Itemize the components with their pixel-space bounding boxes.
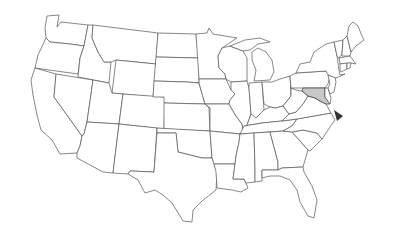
state-south-dakota bbox=[154, 57, 199, 83]
state-pennsylvania bbox=[290, 71, 330, 88]
state-florida bbox=[262, 167, 317, 218]
state-rhode-island bbox=[347, 63, 351, 69]
state-kansas bbox=[164, 103, 210, 131]
pointer-arrow-icon bbox=[334, 110, 343, 121]
us-map bbox=[0, 0, 397, 233]
state-new-mexico bbox=[113, 124, 157, 174]
state-colorado bbox=[119, 94, 165, 129]
state-wyoming bbox=[112, 60, 156, 97]
states-layer bbox=[31, 15, 364, 222]
state-maine bbox=[347, 22, 364, 52]
state-north-dakota bbox=[156, 33, 199, 58]
state-connecticut bbox=[340, 63, 347, 72]
state-washington bbox=[45, 15, 88, 46]
state-montana bbox=[92, 25, 158, 64]
